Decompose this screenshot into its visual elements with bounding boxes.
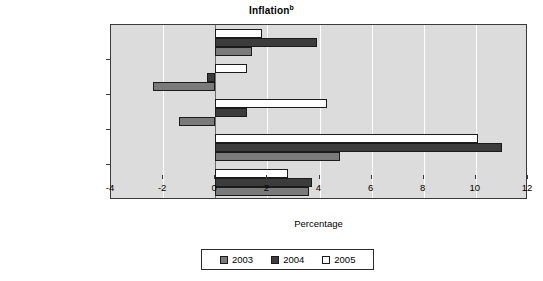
x-tick-6 [371, 175, 372, 179]
chart-title: Inflationb [0, 4, 543, 16]
bar-2004-china [215, 38, 317, 47]
gridline-x-4 [320, 25, 321, 198]
x-tick-label--2: -2 [142, 182, 182, 193]
x-tick-8 [423, 175, 424, 179]
x-tick-0 [214, 175, 215, 179]
x-tick--4 [110, 175, 111, 179]
y-tick-1 [106, 59, 110, 60]
gridline-x-8 [424, 25, 425, 198]
x-tick-label-2: 2 [246, 182, 286, 193]
bar-2003-hong-kong-china [153, 82, 216, 91]
bar-2005-china [215, 29, 262, 38]
x-tick--2 [162, 175, 163, 179]
y-tick-3 [106, 129, 110, 130]
gridline-x-10 [476, 25, 477, 198]
bar-2005-macao-china [215, 99, 327, 108]
bar-2003-china [215, 47, 251, 56]
x-axis-title: Percentage [110, 218, 527, 229]
bar-2003-macao-china [179, 117, 215, 126]
x-tick-2 [266, 175, 267, 179]
x-tick-label-4: 4 [299, 182, 339, 193]
bar-2005-mongolia [215, 134, 478, 143]
legend-item-2005: 2005 [322, 254, 355, 265]
legend-label-2005: 2005 [334, 254, 355, 265]
plot-area [110, 24, 527, 199]
bar-2004-macao-china [215, 108, 246, 117]
chart-title-superscript: b [290, 4, 294, 11]
legend-swatch-2004 [271, 256, 279, 264]
x-tick-12 [527, 175, 528, 179]
x-tick-4 [319, 175, 320, 179]
bar-2004-mongolia [215, 143, 502, 152]
x-tick-label-8: 8 [403, 182, 443, 193]
legend-label-2003: 2003 [232, 254, 253, 265]
legend-item-2004: 2004 [271, 254, 304, 265]
inflation-bar-chart: Inflationb -4-2024681012ChinaHong Kong, … [0, 0, 543, 281]
chart-legend: 2003 2004 2005 [201, 249, 374, 270]
gridline-x-6 [372, 25, 373, 198]
bar-2003-mongolia [215, 152, 340, 161]
x-tick-10 [475, 175, 476, 179]
x-tick-label-10: 10 [455, 182, 495, 193]
y-tick-2 [106, 94, 110, 95]
bar-2004-hong-kong-china [207, 73, 215, 82]
x-tick-label-0: 0 [194, 182, 234, 193]
bar-2005-hong-kong-china [215, 64, 246, 73]
chart-title-text: Inflation [249, 5, 290, 16]
legend-swatch-2003 [220, 256, 228, 264]
gridline-x--2 [163, 25, 164, 198]
legend-label-2004: 2004 [283, 254, 304, 265]
x-tick-label-6: 6 [351, 182, 391, 193]
bar-2005-republic-of-korea [215, 169, 288, 178]
x-tick-label-12: 12 [507, 182, 543, 193]
x-tick-label--4: -4 [90, 182, 130, 193]
legend-swatch-2005 [322, 256, 330, 264]
y-tick-4 [106, 164, 110, 165]
legend-item-2003: 2003 [220, 254, 253, 265]
